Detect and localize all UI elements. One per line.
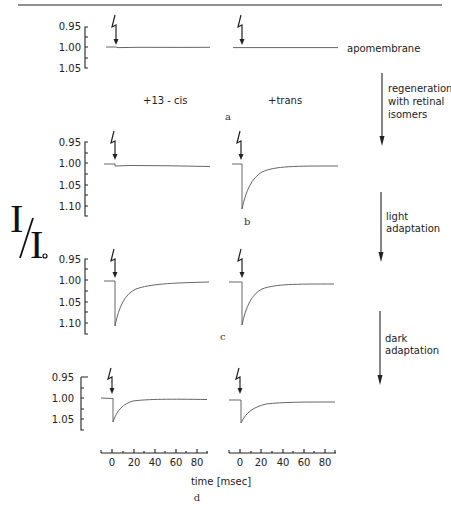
lightning-flash-arrow-icon	[111, 131, 118, 160]
x-tick-label: 80	[319, 457, 332, 468]
y-axis-d: 0.95 1.00 1.05	[52, 372, 88, 430]
x-tick-label: 20	[255, 457, 268, 468]
x-tick-label: 20	[128, 457, 141, 468]
lightning-flash-arrow-icon	[108, 368, 115, 394]
y-tick-label: 1.05	[52, 414, 74, 425]
x-tick-label: 0	[109, 457, 115, 468]
down-arrow-icon	[379, 252, 384, 262]
down-arrow-icon	[378, 375, 383, 385]
apomembrane-label: apomembrane	[347, 43, 420, 54]
panel-d: 0.95 1.00 1.05 0 20 40 60 80 0 20 40	[52, 368, 336, 503]
y-axis-b: 0.95 1.00 1.05 1.10	[59, 137, 88, 216]
lightning-flash-arrow-icon	[237, 131, 244, 160]
step-label: adaptation	[385, 345, 439, 356]
lightning-flash-arrow-icon	[112, 15, 119, 45]
step-label: light	[386, 211, 408, 222]
y-tick-label: 1.05	[59, 297, 81, 308]
trace-c-13cis	[104, 281, 209, 326]
y-axis-title: I I	[10, 196, 47, 267]
figure-canvas: 0.95 1.00 1.05 apomembrane +13 - cis +tr…	[0, 0, 451, 506]
y-label-I: I	[10, 196, 23, 241]
panel-letter-a: a	[225, 111, 231, 122]
y-tick-label: 1.00	[59, 275, 81, 286]
step-label: regeneration	[388, 83, 451, 94]
trace-b-13cis	[104, 164, 210, 167]
x-axis-left: 0 20 40 60 80	[101, 449, 208, 468]
y-tick-label: 1.05	[59, 180, 81, 191]
x-tick-label: 60	[298, 457, 311, 468]
panel-b: 0.95 1.00 1.05 1.10 b	[59, 131, 338, 227]
step-arrow-light-adaptation: light adaptation	[379, 192, 441, 262]
x-tick-label: 0	[237, 457, 243, 468]
y-tick-label: 0.95	[59, 137, 81, 148]
step-label: with retinal	[388, 96, 444, 107]
panel-letter-c: c	[220, 331, 226, 342]
x-tick-label: 40	[149, 457, 162, 468]
down-arrow-icon	[380, 136, 385, 146]
step-label: isomers	[388, 109, 427, 120]
trace-c-trans	[229, 282, 334, 325]
y-axis-c: 0.95 1.00 1.05 1.10	[59, 254, 88, 334]
x-tick-label: 40	[277, 457, 290, 468]
y-tick-label: 0.95	[52, 372, 74, 383]
trace-a-13cis	[106, 47, 210, 48]
condition-trans-label: +trans	[268, 95, 302, 106]
panel-c: 0.95 1.00 1.05 1.10 c	[59, 249, 334, 342]
y-axis-a: 0.95 1.00 1.05	[59, 21, 88, 74]
condition-13-cis-label: +13 - cis	[143, 95, 188, 106]
y-tick-label: 0.95	[59, 21, 81, 32]
x-tick-label: 80	[191, 457, 204, 468]
y-label-I0: I	[30, 222, 43, 267]
lightning-flash-arrow-icon	[236, 368, 243, 394]
x-axis-title: time [msec]	[191, 476, 251, 487]
lightning-flash-arrow-icon	[238, 15, 245, 45]
step-label: adaptation	[386, 223, 440, 234]
step-arrow-regeneration: regeneration with retinal isomers	[380, 73, 451, 146]
panel-letter-b: b	[244, 216, 250, 227]
panel-a: 0.95 1.00 1.05 apomembrane	[59, 15, 421, 74]
y-tick-label: 1.00	[52, 393, 74, 404]
y-tick-label: 1.10	[59, 318, 81, 329]
trace-b-trans	[232, 164, 338, 209]
lightning-flash-arrow-icon	[238, 249, 245, 278]
lightning-flash-arrow-icon	[111, 249, 118, 278]
trace-d-13cis	[101, 398, 207, 422]
x-tick-label: 60	[170, 457, 183, 468]
x-axis-right: 0 20 40 60 80	[229, 449, 336, 468]
y-label-subscript-zero	[43, 254, 47, 258]
y-tick-label: 1.00	[59, 42, 81, 53]
step-arrow-dark-adaptation: dark adaptation	[378, 311, 440, 385]
trace-d-trans	[229, 400, 335, 423]
y-tick-label: 0.95	[59, 254, 81, 265]
y-tick-label: 1.00	[59, 158, 81, 169]
panel-letter-d: d	[194, 492, 201, 503]
y-tick-label: 1.05	[59, 63, 81, 74]
step-label: dark	[385, 333, 408, 344]
y-tick-label: 1.10	[59, 201, 81, 212]
